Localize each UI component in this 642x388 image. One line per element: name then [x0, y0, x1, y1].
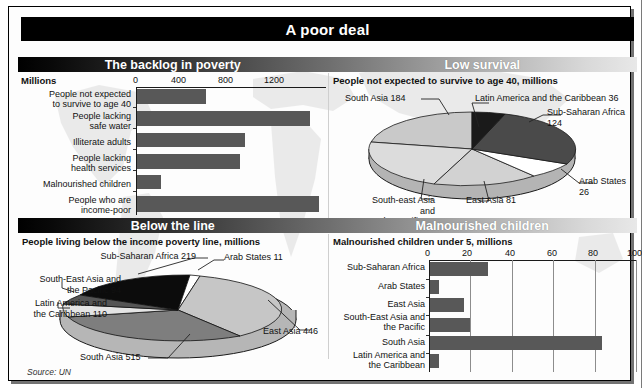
malnourished-tick-20: 20: [462, 248, 472, 258]
malnourished-bar-1: [430, 280, 439, 294]
malnourished-x-axis: [429, 260, 637, 261]
below-the-line-label-south-asia: South Asia 515: [80, 352, 141, 363]
malnourished-cat-label-5: Latin America and the Caribbean: [329, 350, 425, 370]
backlog-tick-800: 800: [218, 75, 233, 85]
low-survival-label-east-asia: East Asia 81: [466, 195, 516, 206]
section-title-backlog: The backlog in poverty: [18, 58, 328, 72]
backlog-x-axis: [136, 87, 326, 88]
malnourished-ytick-5: [426, 353, 429, 354]
below-the-line-label-sub-saharan: Sub-Saharan Africa 219: [96, 251, 196, 262]
backlog-ytick-4: [133, 170, 136, 171]
backlog-tick-1200: 1200: [264, 75, 284, 85]
malnourished-bar-2: [430, 298, 464, 312]
malnourished-cat-label-4: South Asia: [329, 337, 425, 347]
backlog-cat-label-5: People who are income-poor: [21, 195, 131, 215]
backlog-ytick-3: [133, 149, 136, 150]
low-survival-label-south-asia: South Asia 184: [345, 93, 406, 104]
backlog-tick-400: 400: [171, 75, 186, 85]
page-title: A poor deal: [285, 21, 369, 38]
backlog-bar-2: [137, 133, 245, 147]
backlog-ytick-2: [133, 128, 136, 129]
malnourished-ytick-1: [426, 279, 429, 280]
malnourished-bar-0: [430, 262, 488, 276]
malnourished-gridline-20: [470, 260, 471, 372]
backlog-cat-label-4: Malnourished children: [21, 179, 131, 189]
source-note: Source: UN: [27, 367, 71, 377]
malnourished-tick-60: 60: [547, 248, 557, 258]
malnourished-tick-100: 100: [627, 248, 642, 258]
section-title-below-the-line: Below the line: [18, 219, 328, 233]
backlog-bar-1: [137, 111, 310, 126]
chart-malnourished-children: Malnourished children under 5, millions …: [329, 234, 637, 386]
low-survival-label-latin-america: Latin America and the Caribbean 36: [475, 93, 619, 104]
malnourished-gridline-100: [636, 260, 637, 372]
malnourished-bar-5: [430, 354, 439, 368]
backlog-ytick-5: [133, 191, 136, 192]
backlog-bar-5: [137, 196, 319, 212]
chart-below-the-line: People living below the income poverty l…: [18, 234, 328, 386]
backlog-cat-label-3: People lacking health services: [21, 153, 131, 173]
malnourished-gridline-80: [595, 260, 596, 372]
section-title-low-survival: Low survival: [328, 58, 638, 72]
malnourished-ytick-4: [426, 335, 429, 336]
malnourished-cat-label-1: Arab States: [329, 281, 425, 291]
chart-backlog-in-poverty: Millions 0 400 800 1200 People not expec…: [18, 73, 328, 218]
malnourished-ytick-3: [426, 315, 429, 316]
malnourished-cat-label-2: East Asia: [329, 299, 425, 309]
backlog-cat-label-2: Illiterate adults: [21, 137, 131, 147]
below-the-line-label-east-asia: East Asia 446: [263, 326, 318, 337]
main-title-bar: A poor deal: [21, 17, 634, 41]
low-survival-label-sub-saharan: Sub-Saharan Africa 124: [547, 107, 637, 128]
backlog-cat-label-1: People lacking safe water: [21, 111, 131, 131]
malnourished-gridline-40: [512, 260, 513, 372]
below-the-line-label-south-east-asia: South-East Asia and the Pacific 94: [21, 274, 121, 295]
backlog-bar-4: [137, 175, 161, 189]
section-title-malnourished: Malnourished children: [328, 219, 638, 233]
below-the-line-caption: People living below the income poverty l…: [22, 236, 260, 247]
section-band-bottom: Below the line Malnourished children: [18, 218, 637, 233]
backlog-ytick-1: [133, 107, 136, 108]
low-survival-label-arab-states: Arab States 26: [579, 176, 637, 197]
backlog-unit-label: Millions: [21, 75, 56, 86]
malnourished-bar-4: [430, 336, 602, 350]
backlog-tick-0: 0: [133, 75, 138, 85]
malnourished-tick-0: 0: [425, 248, 430, 258]
below-the-line-label-arab-states: Arab States 11: [224, 252, 283, 263]
low-survival-caption: People not expected to survive to age 40…: [333, 75, 558, 86]
malnourished-tick-40: 40: [505, 248, 515, 258]
malnourished-ytick-2: [426, 297, 429, 298]
malnourished-cat-label-3: South-East Asia and the Pacific: [329, 312, 425, 332]
malnourished-bar-3: [430, 318, 470, 332]
infographic-frame: A poor deal The backlog in poverty Low s…: [8, 6, 631, 381]
backlog-cat-label-0: People not expected to survive to age 40: [21, 89, 131, 109]
backlog-bar-0: [137, 89, 206, 104]
backlog-bar-3: [137, 154, 240, 169]
malnourished-caption: Malnourished children under 5, millions: [333, 236, 512, 247]
below-the-line-label-latin-america: Latin America and the Caribbean 110: [21, 298, 107, 319]
malnourished-gridline-60: [553, 260, 554, 372]
chart-low-survival: People not expected to survive to age 40…: [329, 73, 637, 218]
malnourished-cat-label-0: Sub-Saharan Africa: [329, 262, 425, 272]
section-band-top: The backlog in poverty Low survival: [18, 57, 637, 72]
malnourished-tick-80: 80: [588, 248, 598, 258]
